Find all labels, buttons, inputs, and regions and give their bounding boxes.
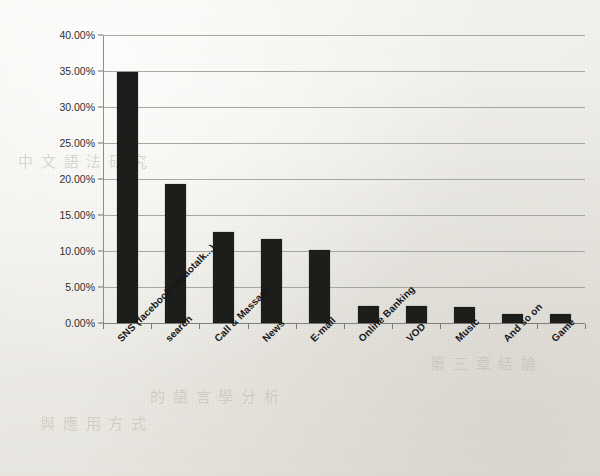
x-axis-tick-mark bbox=[537, 324, 538, 329]
y-axis-tick-label: 40.00% bbox=[33, 29, 95, 41]
bar bbox=[406, 306, 427, 323]
bar bbox=[117, 72, 138, 323]
y-axis-tick-mark bbox=[98, 35, 103, 36]
bar bbox=[165, 184, 186, 323]
x-axis-tick-mark bbox=[440, 324, 441, 329]
y-axis-tick-label: 5.00% bbox=[33, 281, 95, 293]
gridline bbox=[103, 143, 585, 144]
x-axis-tick-mark bbox=[489, 324, 490, 329]
bar bbox=[213, 232, 234, 323]
gridline bbox=[103, 107, 585, 108]
bar-chart: 0.00%5.00%10.00%15.00%20.00%25.00%30.00%… bbox=[0, 0, 600, 476]
y-axis-tick-mark bbox=[98, 215, 103, 216]
x-axis-tick-mark bbox=[296, 324, 297, 329]
x-axis-tick-mark bbox=[392, 324, 393, 329]
y-axis-tick-label: 10.00% bbox=[33, 245, 95, 257]
bar bbox=[261, 239, 282, 323]
y-axis-tick-mark bbox=[98, 143, 103, 144]
x-axis-tick-mark bbox=[151, 324, 152, 329]
gridline bbox=[103, 71, 585, 72]
y-axis-tick-label: 20.00% bbox=[33, 173, 95, 185]
bar bbox=[309, 250, 330, 323]
y-axis-tick-label: 35.00% bbox=[33, 65, 95, 77]
x-axis-tick-mark bbox=[248, 324, 249, 329]
x-axis-tick-mark bbox=[103, 324, 104, 329]
y-axis-tick-mark bbox=[98, 71, 103, 72]
y-axis-tick-label: 15.00% bbox=[33, 209, 95, 221]
y-axis-tick-mark bbox=[98, 179, 103, 180]
y-axis-tick-label: 30.00% bbox=[33, 101, 95, 113]
x-axis-category-label: VOD bbox=[405, 321, 428, 344]
y-axis-tick-mark bbox=[98, 287, 103, 288]
x-axis-tick-mark bbox=[585, 324, 586, 329]
y-axis-tick-label: 0.00% bbox=[33, 317, 95, 329]
y-axis-tick-label: 25.00% bbox=[33, 137, 95, 149]
y-axis-tick-mark bbox=[98, 251, 103, 252]
x-axis-tick-mark bbox=[344, 324, 345, 329]
x-axis-tick-mark bbox=[199, 324, 200, 329]
gridline bbox=[103, 179, 585, 180]
gridline bbox=[103, 35, 585, 36]
y-axis-tick-mark bbox=[98, 107, 103, 108]
